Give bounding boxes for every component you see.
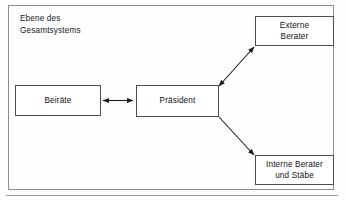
node-interne-berater-und-staebe[interactable]: Interne Berater und Stäbe <box>255 155 334 185</box>
node-externe-berater[interactable]: Externe Berater <box>255 16 334 46</box>
bottom-divider <box>6 195 338 196</box>
level-caption: Ebene des Gesamtsystems <box>20 13 81 36</box>
diagram-screen: Ebene des Gesamtsystems Präsident --> Ex… <box>0 0 346 200</box>
node-praesident[interactable]: Präsident <box>136 85 219 117</box>
node-beiraete[interactable]: Beiräte <box>15 85 101 116</box>
